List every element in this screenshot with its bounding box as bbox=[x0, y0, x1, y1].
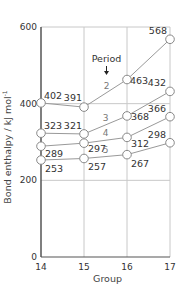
x-tick-label: 14 bbox=[35, 262, 47, 272]
bond-enthalpy-chart: 020040060014151617GroupBond enthalpy / k… bbox=[0, 0, 185, 291]
period-label: 3 bbox=[103, 113, 109, 123]
data-value-label: 321 bbox=[64, 120, 82, 131]
data-value-label: 402 bbox=[44, 90, 62, 101]
period-label: 5 bbox=[103, 145, 109, 155]
data-value-label: 432 bbox=[148, 77, 166, 88]
data-point bbox=[123, 150, 132, 159]
data-point bbox=[123, 112, 132, 121]
data-point bbox=[166, 138, 175, 147]
data-value-label: 267 bbox=[131, 158, 149, 169]
x-axis-title: Group bbox=[93, 273, 122, 284]
data-point bbox=[166, 87, 175, 96]
data-point bbox=[123, 133, 132, 142]
period-annotation: Period bbox=[92, 53, 122, 64]
data-value-label: 463 bbox=[130, 75, 148, 86]
data-value-label: 323 bbox=[44, 120, 62, 131]
data-point bbox=[37, 156, 46, 165]
data-point bbox=[37, 142, 46, 151]
y-tick-label: 200 bbox=[20, 175, 37, 185]
data-point bbox=[80, 154, 89, 163]
data-value-label: 289 bbox=[45, 148, 63, 159]
data-value-label: 253 bbox=[45, 163, 63, 174]
data-point bbox=[80, 103, 89, 112]
y-tick-label: 400 bbox=[20, 99, 37, 109]
data-value-label: 391 bbox=[64, 92, 82, 103]
data-value-label: 257 bbox=[88, 161, 106, 172]
y-tick-label: 600 bbox=[20, 22, 37, 32]
period-label: 2 bbox=[104, 81, 110, 91]
data-value-label: 568 bbox=[149, 25, 167, 36]
x-tick-label: 16 bbox=[121, 262, 133, 272]
period-label: 4 bbox=[103, 128, 109, 138]
data-value-label: 368 bbox=[131, 111, 149, 122]
data-value-label: 312 bbox=[131, 138, 149, 149]
data-point bbox=[166, 112, 175, 121]
x-tick-label: 17 bbox=[164, 262, 175, 272]
data-value-label: 298 bbox=[148, 129, 166, 140]
y-axis-title: Bond enthalpy / kJ mol-1 bbox=[1, 90, 13, 204]
labels: 020040060014151617GroupBond enthalpy / k… bbox=[1, 22, 176, 284]
data-point bbox=[80, 139, 89, 148]
x-tick-label: 15 bbox=[78, 262, 89, 272]
arrow-head-icon bbox=[104, 71, 109, 75]
data-value-label: 366 bbox=[148, 103, 166, 114]
y-tick-label: 0 bbox=[31, 252, 37, 262]
